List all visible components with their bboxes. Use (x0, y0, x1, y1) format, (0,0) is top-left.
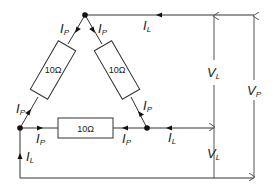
node-right (144, 125, 150, 131)
resistor-left-label: 10Ω (45, 65, 62, 75)
node-top (82, 12, 88, 18)
arrow-left-icon (156, 13, 162, 18)
arrow-up-icon (18, 153, 23, 159)
arrow-up-right-icon (25, 109, 31, 116)
label-ip-left-lower: IP (16, 101, 26, 117)
resistor-right: 10Ω (94, 41, 139, 99)
arrow-right-icon (37, 126, 43, 131)
label-il-left: IL (26, 149, 34, 165)
resistor-right-label: 10Ω (109, 65, 126, 75)
label-vp: VP (247, 83, 262, 99)
arrow-down-left-icon (75, 27, 81, 34)
arrow-down-right-icon (89, 27, 95, 34)
label-il-top: IL (143, 18, 151, 34)
resistor-bottom-label: 10Ω (77, 124, 94, 134)
label-il-middle: IL (168, 130, 176, 146)
node-left (17, 125, 23, 131)
label-ip-right-lower: IP (143, 98, 153, 114)
label-ip-bottom-right: IP (122, 131, 132, 147)
label-ip-bottom-left: IP (36, 131, 46, 147)
label-ip-top-left: IP (60, 21, 70, 37)
resistor-left: 10Ω (30, 41, 75, 99)
arrow-left-icon (122, 126, 128, 131)
label-ip-top-right: IP (98, 21, 108, 37)
resistor-bottom: 10Ω (58, 118, 113, 138)
label-vl-upper: VL (207, 65, 220, 81)
delta-circuit-diagram: 10Ω 10Ω 10Ω (0, 0, 275, 185)
labels: IL IP IP IP IP IP IP IL IL (16, 18, 262, 165)
label-vl-lower: VL (207, 146, 220, 162)
